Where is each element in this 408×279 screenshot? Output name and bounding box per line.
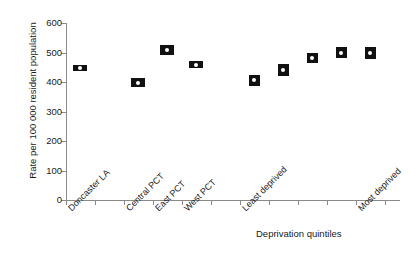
x-tick-mark <box>385 200 386 205</box>
y-axis-title: Rate per 100 000 resident population <box>27 11 38 191</box>
x-tick-mark <box>327 200 328 205</box>
x-axis-label: Least deprived <box>240 164 289 213</box>
y-tick-label: 400 <box>36 77 62 87</box>
data-point-marker <box>136 81 140 85</box>
y-tick-label: 0 <box>36 195 62 205</box>
y-tick-label: 300 <box>36 107 62 117</box>
y-axis-line <box>66 23 67 201</box>
data-point-marker <box>339 51 343 55</box>
x-axis-label: Doncaster LA <box>66 167 112 213</box>
x-axis-label: West PCT <box>182 177 218 213</box>
y-tick-label: 600 <box>36 18 62 28</box>
x-tick-mark <box>298 200 299 205</box>
x-tick-mark <box>211 200 212 205</box>
data-point-marker <box>78 66 82 70</box>
x-tick-mark <box>95 200 96 205</box>
x-axis-line <box>66 200 400 201</box>
y-tick-label: 500 <box>36 48 62 58</box>
x-axis-label: Most deprived <box>356 166 403 213</box>
x-tick-mark <box>269 200 270 205</box>
chart-container: Rate per 100 000 resident population 010… <box>0 0 408 279</box>
x-axis-title: Deprivation quintiles <box>256 228 342 239</box>
y-tick-label: 100 <box>36 166 62 176</box>
y-tick-label: 200 <box>36 136 62 146</box>
data-point-marker <box>194 63 198 67</box>
